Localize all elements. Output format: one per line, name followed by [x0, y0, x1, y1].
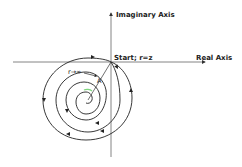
arrow-icon	[129, 88, 133, 92]
real-axis-label: Real Axis	[196, 54, 232, 62]
center-highlight	[84, 89, 92, 91]
arrow-icon	[95, 121, 99, 125]
spiral-curve	[43, 58, 132, 140]
imaginary-axis-label: Imaginary Axis	[116, 11, 175, 19]
spiral-diagram: Imaginary Axis Real Axis Start; r=z r→∞ …	[0, 0, 242, 167]
start-label: Start; r=z	[114, 54, 153, 62]
point-a-label: A	[97, 77, 102, 85]
r-infinity-label: r→∞	[68, 68, 82, 76]
arrow-icon	[66, 132, 70, 136]
arrow-icon	[65, 109, 69, 113]
